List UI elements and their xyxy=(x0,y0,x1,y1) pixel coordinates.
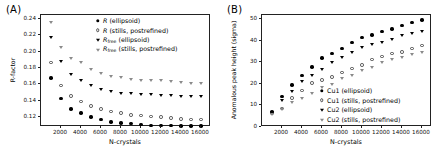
data-point-open-circle xyxy=(49,61,53,65)
data-point-open-triangle xyxy=(129,78,133,81)
legend-item: Cu2 (stills, postrefined) xyxy=(316,115,428,125)
data-point-filled-circle xyxy=(320,89,323,92)
data-point-filled-triangle xyxy=(370,43,374,46)
data-point-filled-circle xyxy=(310,65,313,68)
data-point-open-circle xyxy=(340,71,344,75)
y-tick-label: 50 xyxy=(235,15,257,21)
y-tick xyxy=(259,40,261,41)
data-point-open-circle xyxy=(390,52,394,56)
data-point-open-circle xyxy=(300,89,304,93)
data-point-open-circle xyxy=(159,115,163,119)
data-point-filled-circle xyxy=(280,95,283,98)
data-point-filled-triangle xyxy=(69,73,73,76)
x-tick xyxy=(60,126,61,128)
data-point-open-triangle xyxy=(189,82,193,85)
data-point-open-circle xyxy=(290,96,294,100)
data-point-open-circle xyxy=(370,58,374,62)
data-point-filled-circle xyxy=(96,19,99,22)
x-tick-label: 16000 xyxy=(187,129,213,135)
data-point-open-triangle xyxy=(280,108,284,111)
y-tick xyxy=(259,83,261,84)
data-point-open-triangle xyxy=(159,79,163,82)
data-point-open-circle xyxy=(380,55,384,59)
data-point-open-circle xyxy=(149,115,153,119)
legend-item: Cu2 (ellipsoid) xyxy=(316,105,428,115)
data-point-filled-circle xyxy=(340,47,343,50)
panel-b: (B) Anomalous peak height (sigma) N-crys… xyxy=(221,0,442,158)
data-point-open-circle xyxy=(109,110,113,114)
x-tick xyxy=(421,126,422,128)
x-tick xyxy=(160,126,161,128)
data-point-open-triangle xyxy=(99,72,103,75)
data-point-open-triangle xyxy=(139,79,143,82)
data-point-open-triangle xyxy=(420,51,424,54)
data-point-filled-triangle xyxy=(400,34,404,37)
y-tick xyxy=(259,18,261,19)
x-tick xyxy=(321,126,322,128)
panel-b-legend: Cu1 (ellipsoid)Cu1 (stills, postrefined)… xyxy=(316,86,428,124)
data-point-filled-triangle xyxy=(129,92,133,95)
legend-marker-open-circle xyxy=(316,96,327,106)
x-tick xyxy=(381,126,382,128)
data-point-filled-triangle xyxy=(340,56,344,59)
x-tick xyxy=(361,126,362,128)
data-point-open-triangle xyxy=(199,82,203,85)
data-point-filled-circle xyxy=(410,21,413,24)
data-point-open-triangle xyxy=(380,61,384,64)
data-point-open-triangle xyxy=(59,46,63,49)
y-tick xyxy=(38,18,40,19)
data-point-open-circle xyxy=(330,75,334,79)
panel-a-x-axis-label: N-crystals xyxy=(40,138,210,146)
x-tick xyxy=(281,126,282,128)
panel-a: (A) R-factor N-crystals R (ellipsoid)R (… xyxy=(0,0,221,158)
y-tick-label: 20 xyxy=(235,80,257,86)
data-point-filled-circle xyxy=(320,56,323,59)
data-point-filled-circle xyxy=(169,124,172,127)
data-point-filled-triangle xyxy=(310,74,314,77)
data-point-open-triangle xyxy=(89,68,93,71)
y-tick-label: 30 xyxy=(235,58,257,64)
legend-marker-open-circle xyxy=(92,26,103,36)
data-point-open-circle xyxy=(169,116,173,120)
data-point-open-triangle xyxy=(69,57,73,60)
data-point-open-circle xyxy=(179,117,183,121)
y-tick xyxy=(38,83,40,84)
y-tick-label: 0.20 xyxy=(14,48,36,54)
y-tick-label: 0.22 xyxy=(14,31,36,37)
data-point-open-circle xyxy=(96,29,100,33)
data-point-open-circle xyxy=(99,107,103,111)
data-point-filled-circle xyxy=(189,124,192,127)
x-tick xyxy=(180,126,181,128)
data-point-open-triangle xyxy=(410,53,414,56)
y-tick xyxy=(38,116,40,117)
data-point-open-triangle xyxy=(96,48,100,51)
y-tick xyxy=(259,61,261,62)
data-point-open-triangle xyxy=(149,79,153,82)
data-point-open-circle xyxy=(129,113,133,117)
legend-label: Cu2 (stills, postrefined) xyxy=(327,115,400,125)
data-point-filled-triangle xyxy=(350,51,354,54)
y-tick xyxy=(38,51,40,52)
panel-a-label: (A) xyxy=(6,4,21,15)
data-point-open-triangle xyxy=(290,101,294,104)
data-point-filled-triangle xyxy=(189,95,193,98)
data-point-open-triangle xyxy=(119,76,123,79)
y-tick xyxy=(38,100,40,101)
data-point-filled-triangle xyxy=(49,36,53,39)
data-point-open-circle xyxy=(400,50,404,54)
data-point-filled-triangle xyxy=(330,61,334,64)
data-point-filled-triangle xyxy=(320,68,324,71)
panel-b-label: (B) xyxy=(227,4,242,15)
y-tick xyxy=(259,104,261,105)
data-point-filled-triangle xyxy=(139,93,143,96)
data-point-filled-triangle xyxy=(79,79,83,82)
data-point-filled-circle xyxy=(370,33,373,36)
figure-root: (A) R-factor N-crystals R (ellipsoid)R (… xyxy=(0,0,442,158)
data-point-filled-triangle xyxy=(300,80,304,83)
legend-label: Rfree (stills, postrefined) xyxy=(103,44,177,55)
data-point-open-circle xyxy=(69,94,73,98)
data-point-open-triangle xyxy=(370,66,374,69)
legend-item: R (ellipsoid) xyxy=(92,16,204,26)
data-point-open-circle xyxy=(189,118,193,122)
data-point-filled-circle xyxy=(49,76,52,79)
